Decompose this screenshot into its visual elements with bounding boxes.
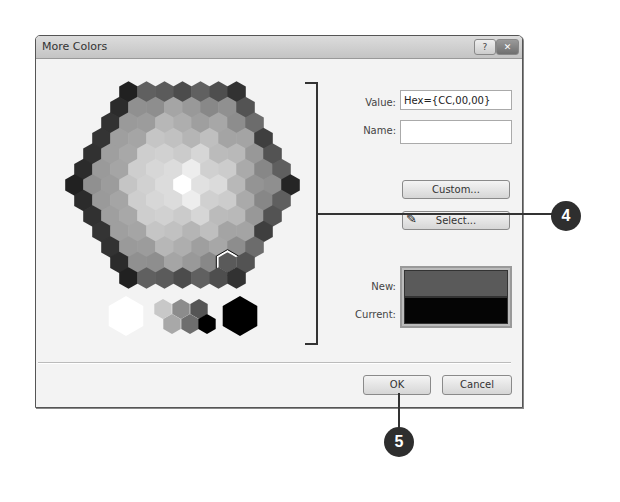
color-honeycomb[interactable] bbox=[0, 0, 620, 502]
separator bbox=[38, 362, 511, 364]
color-preview bbox=[400, 266, 512, 328]
select-button-label: Select... bbox=[436, 215, 476, 226]
value-field[interactable]: Hex={CC,00,00} bbox=[400, 90, 512, 110]
callout-5: 5 bbox=[384, 427, 414, 457]
name-field[interactable] bbox=[400, 120, 512, 144]
cancel-button[interactable]: Cancel bbox=[442, 375, 512, 395]
current-label: Current: bbox=[346, 309, 396, 320]
current-color-swatch bbox=[404, 297, 508, 324]
value-label: Value: bbox=[346, 97, 396, 108]
name-label: Name: bbox=[346, 125, 396, 136]
bracket-bottom bbox=[305, 343, 317, 345]
custom-button[interactable]: Custom... bbox=[402, 180, 510, 199]
callout-5-line bbox=[398, 393, 400, 428]
ok-button[interactable]: OK bbox=[363, 375, 431, 395]
white-hex[interactable] bbox=[109, 296, 144, 336]
new-label: New: bbox=[346, 281, 396, 292]
black-hex[interactable] bbox=[223, 296, 258, 336]
callout-4-line bbox=[318, 213, 552, 215]
bracket-top bbox=[305, 82, 317, 84]
new-color-swatch bbox=[404, 270, 508, 297]
callout-4: 4 bbox=[551, 201, 581, 231]
